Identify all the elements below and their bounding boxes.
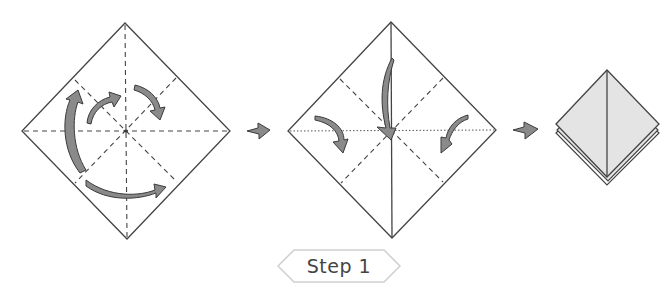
panel-2-diamond bbox=[288, 22, 496, 238]
step-label: Step 1 bbox=[278, 250, 400, 282]
panel-1-diamond bbox=[22, 23, 230, 239]
next-arrow-icon bbox=[247, 123, 270, 139]
next-arrow-icon bbox=[513, 122, 538, 139]
panel-3-square-base bbox=[556, 70, 659, 185]
